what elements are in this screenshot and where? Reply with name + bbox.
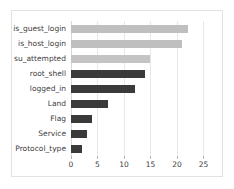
category-label: is_host_login <box>18 36 66 51</box>
bar-row: Protocol_type <box>71 141 214 156</box>
bar <box>71 70 145 78</box>
x-tick-label: 0 <box>69 160 74 169</box>
bar <box>71 115 92 123</box>
x-tick-mark <box>71 156 72 159</box>
bar-row: is_host_login <box>71 36 214 51</box>
category-label: logged_in <box>30 81 66 96</box>
category-label: Protocol_type <box>15 141 66 156</box>
bar-row: su_attempted <box>71 51 214 66</box>
bar-row: is_guest_login <box>71 21 214 36</box>
bar <box>71 130 87 138</box>
bar-row: logged_in <box>71 81 214 96</box>
x-tick-mark <box>203 156 204 159</box>
category-label: Land <box>48 96 66 111</box>
x-tick-label: 25 <box>199 160 209 169</box>
bar <box>71 145 82 153</box>
bar-row: Land <box>71 96 214 111</box>
x-tick-label: 5 <box>95 160 100 169</box>
x-tick-mark <box>150 156 151 159</box>
category-label: is_guest_login <box>13 21 66 36</box>
category-label: Flag <box>50 111 66 126</box>
category-label: Service <box>38 126 66 141</box>
plot-area: is_guest_loginis_host_loginsu_attemptedr… <box>71 21 214 156</box>
category-label: root_shell <box>30 66 66 81</box>
bar <box>71 40 182 48</box>
x-tick-label: 20 <box>172 160 182 169</box>
bar <box>71 100 108 108</box>
x-tick-mark <box>177 156 178 159</box>
bar-row: root_shell <box>71 66 214 81</box>
x-tick-label: 15 <box>146 160 156 169</box>
x-tick-label: 10 <box>119 160 129 169</box>
category-label: su_attempted <box>14 51 66 66</box>
x-tick-mark <box>97 156 98 159</box>
bar-row: Flag <box>71 111 214 126</box>
bar-row: Service <box>71 126 214 141</box>
chart-frame: is_guest_loginis_host_loginsu_attemptedr… <box>11 10 223 177</box>
bar <box>71 25 188 33</box>
bar <box>71 55 150 63</box>
x-axis: 0510152025 <box>71 156 214 176</box>
x-tick-mark <box>124 156 125 159</box>
bar <box>71 85 135 93</box>
